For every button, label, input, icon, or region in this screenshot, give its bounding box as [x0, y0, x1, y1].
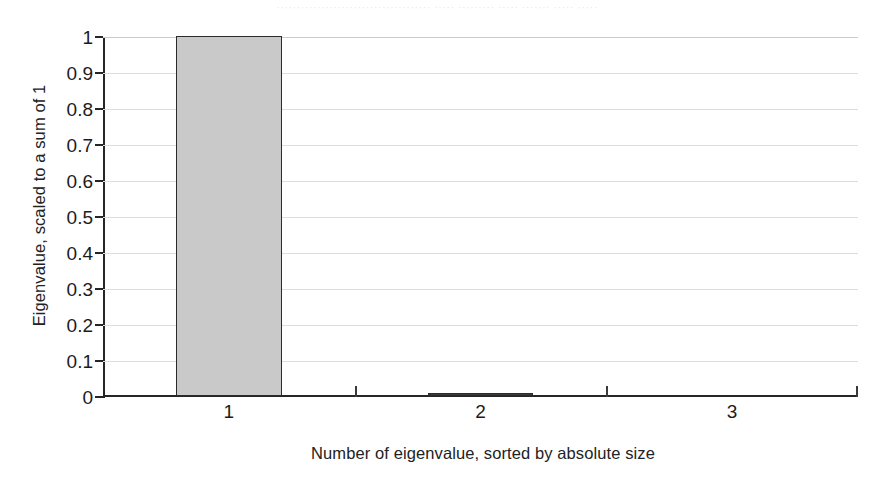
y-axis-tick-mark	[95, 36, 103, 38]
y-axis-tick-label: 1	[33, 28, 93, 47]
y-axis-tick-label: 0.3	[33, 280, 93, 299]
y-axis-tick-label: 0.2	[33, 316, 93, 335]
bar	[176, 36, 282, 396]
y-axis-tick-label: 0.8	[33, 100, 93, 119]
scree-plot-figure: ······································ ·…	[0, 0, 874, 485]
y-axis-tick-label: 0.9	[33, 64, 93, 83]
y-axis-tick-label: 0.4	[33, 244, 93, 263]
bar	[428, 393, 534, 396]
x-axis-tick-mark	[355, 386, 357, 397]
x-axis-tick-label: 3	[692, 401, 772, 423]
y-axis-tick-mark	[95, 108, 103, 110]
y-axis-tick-label: 0.5	[33, 208, 93, 227]
y-axis-tick-label: 0.7	[33, 136, 93, 155]
x-axis-tick-label: 2	[441, 401, 521, 423]
y-axis-tick-label: 0.6	[33, 172, 93, 191]
y-axis-tick-mark	[95, 144, 103, 146]
y-axis-tick-mark	[95, 72, 103, 74]
y-axis-tick-mark	[95, 216, 103, 218]
y-axis-tick-mark	[95, 252, 103, 254]
x-axis-right-end-tick	[856, 386, 858, 397]
plot-area: 00.10.20.30.40.50.60.70.80.91 123	[103, 37, 858, 397]
x-axis-tick-label: 1	[189, 401, 269, 423]
y-axis-tick-label: 0.1	[33, 352, 93, 371]
y-axis-tick-mark	[95, 396, 103, 398]
page-scan-artifact-text: ······································ ·…	[0, 0, 874, 14]
y-axis-tick-mark	[95, 360, 103, 362]
y-axis-tick-label: 0	[33, 388, 93, 407]
y-axis-tick-mark	[95, 180, 103, 182]
x-axis-tick-mark	[606, 386, 608, 397]
y-axis-tick-mark	[95, 288, 103, 290]
y-axis-tick-mark	[95, 324, 103, 326]
x-axis-title: Number of eigenvalue, sorted by absolute…	[103, 444, 863, 463]
